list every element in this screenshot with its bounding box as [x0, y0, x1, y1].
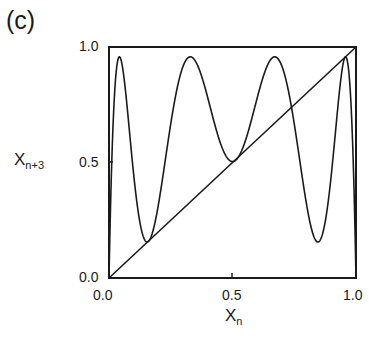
third-iterate-curve — [109, 57, 356, 278]
identity-line — [109, 47, 356, 278]
plot-area — [0, 0, 369, 341]
